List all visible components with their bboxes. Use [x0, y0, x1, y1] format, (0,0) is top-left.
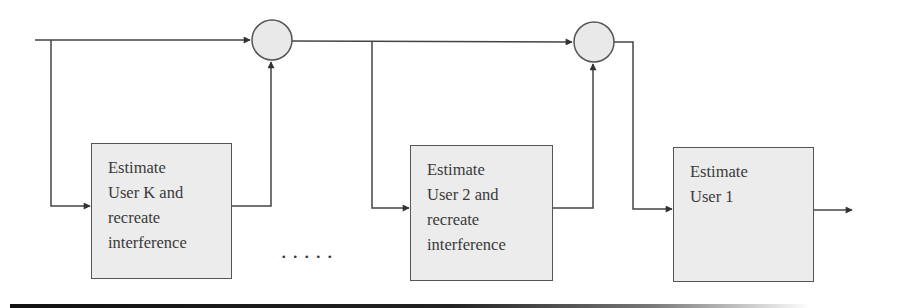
- block-text-line: interference: [108, 230, 231, 255]
- block-text-line: recreate: [427, 207, 552, 232]
- block-text-line: interference: [427, 232, 552, 257]
- tap-line-to-block-2: [372, 41, 409, 208]
- ellipsis-more-users: .....: [281, 238, 339, 264]
- summer1-to-summer2-line: [292, 41, 572, 42]
- block-user-k: Estimate User K and recreate interferenc…: [91, 143, 232, 279]
- summer-1: [252, 20, 292, 60]
- block-text-line: User 2 and: [427, 182, 552, 207]
- block-user-1: Estimate User 1: [673, 147, 814, 282]
- block-2-output-line: [553, 64, 593, 208]
- summer2-to-block-1-line: [614, 42, 672, 209]
- tap-line-to-block-k: [51, 40, 90, 206]
- bottom-divider: [10, 304, 810, 308]
- summer-2: [574, 22, 614, 62]
- block-k-output-line: [232, 62, 271, 206]
- block-text-line: User K and: [108, 180, 231, 205]
- block-text-line: Estimate: [427, 157, 552, 182]
- block-user-2: Estimate User 2 and recreate interferenc…: [410, 145, 553, 281]
- block-text-line: recreate: [108, 205, 231, 230]
- block-text-line: Estimate: [690, 159, 813, 184]
- block-text-line: Estimate: [108, 155, 231, 180]
- block-text-line: User 1: [690, 184, 813, 209]
